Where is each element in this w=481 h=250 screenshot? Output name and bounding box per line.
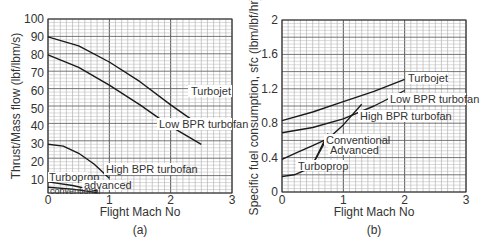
y-tick-label: 50 <box>31 102 45 116</box>
chart-b-label-advanced: Advanced <box>330 144 379 156</box>
y-tick-label: 40 <box>31 119 45 133</box>
chart-b-caption: (b) <box>367 223 382 237</box>
chart-a-y-axis-title: Thrust/Mass flow (lbf/lbm/s) <box>9 33 23 180</box>
y-tick-label: 60 <box>31 84 45 98</box>
y-tick-label: 70 <box>31 66 45 80</box>
y-tick-label: 1.6 <box>261 47 278 61</box>
chart-a-caption: (a) <box>133 223 148 237</box>
chart-b-y-axis-title: Specific fuel consumption, sfc (lbm/lbf/… <box>247 0 261 215</box>
figure: 102030405060708090100 0123 Turbojet Low … <box>0 0 481 250</box>
chart-a-y-ticks: 102030405060708090100 <box>24 12 44 187</box>
chart-b-sfc: 00.40.81.21.62 0123 Turbojet Low BPR tur… <box>247 0 479 237</box>
x-tick-label: 3 <box>229 193 236 207</box>
y-tick-label: 2 <box>271 13 278 27</box>
chart-a-thrust: 102030405060708090100 0123 Turbojet Low … <box>9 12 248 237</box>
chart-a-label-low-bpr: Low BPR turbofan <box>159 118 248 130</box>
x-tick-label: 3 <box>463 193 470 207</box>
y-tick-label: 0.4 <box>261 151 278 165</box>
curve-low-bpr-turbofan <box>48 55 201 145</box>
chart-a-label-conventional: conventional <box>50 186 101 196</box>
y-tick-label: 100 <box>24 12 44 26</box>
y-tick-label: 1.2 <box>261 82 278 96</box>
y-tick-label: 90 <box>31 30 45 44</box>
y-tick-label: 20 <box>31 155 45 169</box>
chart-b-y-ticks: 00.40.81.21.62 <box>261 13 278 199</box>
chart-a-label-turbojet: Turbojet <box>191 85 231 97</box>
chart-b-label-low-bpr: Low BPR turbofan <box>390 93 479 105</box>
y-tick-label: 10 <box>31 173 45 187</box>
x-tick-label: 0 <box>279 193 286 207</box>
y-tick-label: 80 <box>31 48 45 62</box>
y-tick-label: 30 <box>31 137 45 151</box>
chart-a-label-high-bpr: High BPR turbofan <box>106 163 198 175</box>
chart-b-x-axis-title: Flight Mach No <box>334 205 415 219</box>
chart-b-label-high-bpr: High BPR turbofan <box>360 110 452 122</box>
y-tick-label: 0.8 <box>261 116 278 130</box>
chart-b-label-turboprop: Turboprop <box>298 160 348 172</box>
chart-a-x-axis-title: Flight Mach No <box>100 205 181 219</box>
chart-b-label-turbojet: Turbojet <box>408 72 448 84</box>
y-tick-label: 0 <box>271 185 278 199</box>
